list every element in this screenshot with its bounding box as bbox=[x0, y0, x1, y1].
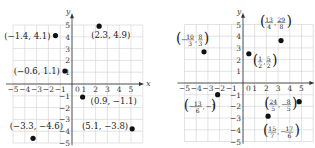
svg-text:2: 2 bbox=[258, 62, 262, 69]
data-point bbox=[53, 33, 58, 38]
svg-text:2: 2 bbox=[65, 56, 70, 65]
svg-text:,: , bbox=[274, 19, 276, 26]
data-point bbox=[201, 49, 206, 54]
svg-text:−3: −3 bbox=[31, 85, 42, 94]
svg-text:3: 3 bbox=[188, 40, 192, 47]
svg-text:−3: −3 bbox=[202, 84, 213, 93]
svg-text:8: 8 bbox=[279, 23, 283, 30]
svg-text:5: 5 bbox=[287, 105, 291, 112]
svg-text:3: 3 bbox=[105, 85, 110, 94]
svg-text:5: 5 bbox=[299, 84, 304, 93]
svg-text:): ) bbox=[286, 13, 291, 29]
svg-text:,: , bbox=[278, 101, 280, 108]
svg-text:−4: −4 bbox=[191, 84, 202, 93]
svg-text:7: 7 bbox=[270, 132, 274, 139]
svg-text:,: , bbox=[195, 36, 197, 43]
svg-text:6: 6 bbox=[196, 107, 200, 114]
point-label: (−136,−1) bbox=[184, 97, 217, 114]
svg-text:−2: −2 bbox=[59, 104, 70, 113]
point-label: (−1.4, 4.1) bbox=[4, 31, 50, 41]
svg-text:5: 5 bbox=[271, 105, 275, 112]
point-label: (2.3, 4.9) bbox=[91, 30, 130, 40]
y-axis-label: y bbox=[65, 7, 71, 16]
svg-text:4: 4 bbox=[65, 33, 70, 42]
svg-text:0: 0 bbox=[75, 85, 80, 94]
svg-text:2: 2 bbox=[93, 85, 98, 94]
y-axis-label: y bbox=[236, 7, 242, 16]
svg-text:4: 4 bbox=[287, 84, 292, 93]
data-point bbox=[30, 136, 35, 141]
svg-text:15: 15 bbox=[268, 125, 276, 132]
svg-text:4: 4 bbox=[267, 23, 271, 30]
svg-text:13: 13 bbox=[265, 16, 273, 23]
svg-text:5: 5 bbox=[236, 21, 241, 30]
svg-text:2: 2 bbox=[267, 62, 271, 69]
svg-text:5: 5 bbox=[267, 55, 271, 62]
data-point bbox=[80, 94, 85, 99]
svg-text:3: 3 bbox=[199, 40, 203, 47]
data-point bbox=[246, 51, 251, 56]
svg-text:4: 4 bbox=[236, 32, 241, 41]
point-label: (−103,83) bbox=[176, 30, 209, 47]
svg-text:,: , bbox=[277, 128, 279, 135]
svg-text:10: 10 bbox=[186, 33, 194, 40]
svg-text:5: 5 bbox=[129, 85, 134, 94]
svg-text:3: 3 bbox=[65, 45, 70, 54]
svg-text:5: 5 bbox=[65, 21, 70, 30]
point-label: (157,−176) bbox=[263, 122, 300, 139]
data-point bbox=[62, 68, 67, 73]
svg-text:1: 1 bbox=[236, 67, 241, 76]
svg-text:3: 3 bbox=[236, 44, 241, 53]
point-label: (245,−85) bbox=[264, 95, 297, 112]
svg-text:): ) bbox=[272, 52, 277, 68]
svg-text:2: 2 bbox=[236, 56, 241, 65]
svg-text:6: 6 bbox=[287, 132, 291, 139]
data-point bbox=[265, 114, 270, 119]
svg-text:−2: −2 bbox=[43, 85, 54, 94]
svg-text:0: 0 bbox=[246, 84, 251, 93]
right-scatter-chart: xy−5−4−3−2−101234554321−1−2−3−4−5(−103,8… bbox=[160, 0, 315, 148]
svg-text:−4: −4 bbox=[230, 126, 241, 135]
svg-text:): ) bbox=[204, 30, 209, 46]
point-label: (134,298) bbox=[260, 13, 292, 30]
svg-text:−5: −5 bbox=[59, 139, 70, 148]
svg-text:13: 13 bbox=[194, 100, 202, 107]
svg-text:8: 8 bbox=[199, 33, 203, 40]
data-points: (−1.4, 4.1)(2.3, 4.9)(−0.6, 1.1)(0.9, −1… bbox=[4, 24, 137, 141]
svg-text:−1: −1 bbox=[230, 91, 241, 100]
svg-text:−2: −2 bbox=[214, 84, 225, 93]
svg-text:−2: −2 bbox=[230, 102, 241, 111]
data-point bbox=[97, 24, 102, 29]
svg-text:3: 3 bbox=[276, 84, 281, 93]
svg-text:2: 2 bbox=[264, 84, 269, 93]
svg-text:−5: −5 bbox=[7, 85, 18, 94]
point-label: (0.9, −1.1) bbox=[91, 96, 137, 106]
data-point bbox=[278, 38, 283, 43]
svg-text:−1: −1 bbox=[59, 92, 70, 101]
x-axis-label: x bbox=[146, 79, 151, 88]
svg-text:): ) bbox=[294, 122, 299, 138]
data-point bbox=[130, 126, 135, 131]
svg-text:−5: −5 bbox=[179, 84, 190, 93]
svg-text:1: 1 bbox=[252, 84, 257, 93]
point-label: (5.1, −3.8) bbox=[82, 121, 128, 131]
point-label: (−3.3, −4.6) bbox=[10, 121, 63, 131]
svg-text:−4: −4 bbox=[19, 85, 30, 94]
svg-text:4: 4 bbox=[117, 85, 122, 94]
svg-text:17: 17 bbox=[286, 125, 294, 132]
point-label: (−0.6, 1.1) bbox=[14, 66, 60, 76]
svg-text:1: 1 bbox=[81, 85, 86, 94]
svg-text:8: 8 bbox=[287, 98, 291, 105]
svg-text:): ) bbox=[292, 95, 297, 111]
left-scatter-chart: xy−5−4−3−2−101234554321−1−2−3−4−5(−1.4, … bbox=[0, 0, 160, 148]
svg-text:,: , bbox=[263, 58, 265, 65]
svg-text:24: 24 bbox=[269, 98, 277, 105]
svg-text:29: 29 bbox=[278, 16, 286, 23]
point-label: (12,52) bbox=[253, 52, 278, 69]
svg-text:1: 1 bbox=[258, 55, 262, 62]
svg-text:,: , bbox=[203, 103, 205, 110]
svg-text:): ) bbox=[211, 97, 216, 113]
svg-text:−5: −5 bbox=[230, 138, 241, 147]
svg-text:−3: −3 bbox=[230, 114, 241, 123]
